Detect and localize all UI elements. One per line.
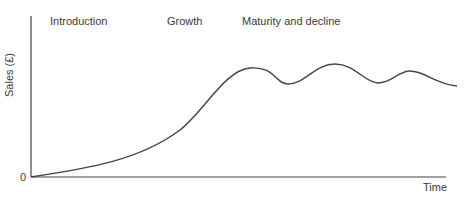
stage-growth-label: Growth [167,15,202,27]
stage-introduction-label: Introduction [50,15,107,27]
sales-curve [31,64,457,177]
stage-maturity-label: Maturity and decline [242,15,340,27]
x-axis-label: Time [423,181,447,193]
chart-canvas [0,0,469,200]
origin-tick-label: 0 [20,171,26,183]
y-axis-label: Sales (£) [3,53,15,97]
